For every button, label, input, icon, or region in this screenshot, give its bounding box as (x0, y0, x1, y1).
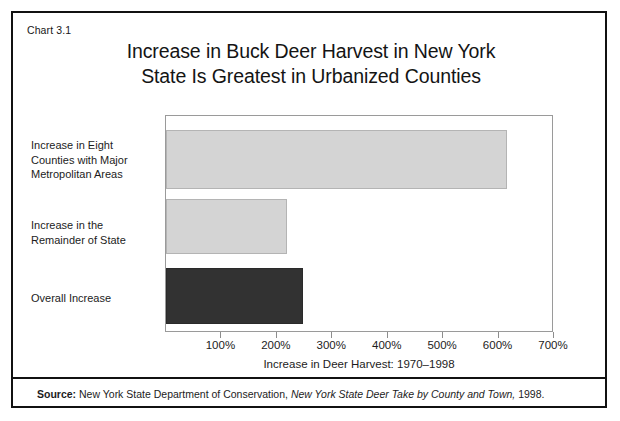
bar-remainder-of-state (166, 199, 287, 254)
category-label-overall-increase: Overall Increase (31, 291, 161, 306)
chart-figure-frame: Chart 3.1 Increase in Buck Deer Harvest … (11, 11, 607, 408)
source-publication: New York State Deer Take by County and T… (291, 388, 515, 400)
category-label-line: Overall Increase (31, 291, 161, 306)
x-axis-tick (387, 332, 388, 338)
x-axis-tick (498, 332, 499, 338)
source-year: 1998. (518, 388, 544, 400)
category-label-metro-counties: Increase in Eight Counties with Major Me… (31, 138, 161, 182)
plot-container: Increase in Eight Counties with Major Me… (13, 13, 609, 410)
x-axis-tick-label: 100% (190, 339, 250, 351)
category-label-line: Increase in the (31, 218, 161, 233)
x-axis-tick (553, 332, 554, 338)
x-axis-tick-label: 700% (523, 339, 583, 351)
category-label-remainder-of-state: Increase in the Remainder of State (31, 218, 161, 247)
bar-overall-increase (166, 268, 303, 324)
category-label-line: Counties with Major (31, 153, 161, 168)
x-axis-tick (220, 332, 221, 338)
x-axis-tick-label: 300% (301, 339, 361, 351)
x-axis-tick (331, 332, 332, 338)
x-axis-tick (442, 332, 443, 338)
x-axis-title: Increase in Deer Harvest: 1970–1998 (165, 358, 553, 370)
category-label-line: Metropolitan Areas (31, 167, 161, 182)
x-axis-tick-label: 600% (468, 339, 528, 351)
source-note: Source: New York State Department of Con… (37, 387, 591, 401)
x-axis-tick-label: 500% (412, 339, 472, 351)
x-axis-tick-label: 200% (246, 339, 306, 351)
category-label-line: Increase in Eight (31, 138, 161, 153)
x-axis-tick (276, 332, 277, 338)
plot-area (165, 115, 553, 332)
source-agency: New York State Department of Conservatio… (79, 388, 288, 400)
category-label-line: Remainder of State (31, 233, 161, 248)
bar-metro-counties (166, 130, 507, 189)
source-label: Source: (37, 388, 76, 400)
source-divider (13, 377, 605, 379)
x-axis-tick-label: 400% (357, 339, 417, 351)
